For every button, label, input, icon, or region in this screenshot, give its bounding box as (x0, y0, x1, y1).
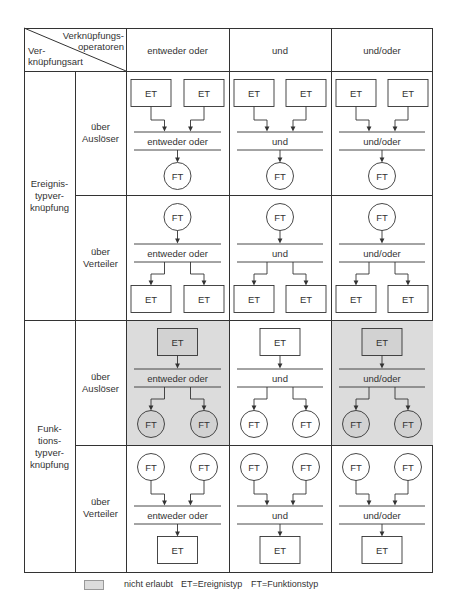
svg-text:FT: FT (402, 462, 414, 473)
group-label-event-type-connection: Ereignis- typver- knüpfung (24, 178, 75, 214)
svg-text:FT: FT (172, 212, 184, 223)
svg-text:FT: FT (145, 462, 157, 473)
operator-label: und/oder (363, 136, 401, 147)
diagram-cell: FTund/oderETET (331, 195, 433, 320)
arrowhead-icon (304, 281, 309, 286)
arrowhead-icon (354, 281, 359, 286)
operator-label: entweder oder (147, 373, 208, 384)
arrowhead-icon (162, 501, 167, 506)
svg-text:FT: FT (300, 419, 312, 430)
diagram-cell: FTentweder oderETET (126, 195, 229, 320)
svg-text:ET: ET (300, 88, 312, 99)
function-type-node: FT (164, 163, 191, 190)
svg-text:ET: ET (171, 545, 183, 556)
svg-text:FT: FT (376, 212, 388, 223)
grid-line (126, 28, 127, 573)
event-type-node: ET (336, 80, 376, 107)
grid-line (75, 195, 433, 196)
subrow-label-via-trigger: über Auslöser (75, 371, 126, 395)
arrowhead-icon (278, 364, 283, 369)
svg-text:ET: ET (376, 545, 388, 556)
function-type-node: FT (241, 411, 268, 438)
svg-text:FT: FT (402, 419, 414, 430)
arrowhead-icon (175, 532, 180, 537)
function-type-node: FT (267, 163, 294, 190)
function-type-node: FT (395, 454, 422, 481)
svg-text:ET: ET (402, 294, 414, 305)
arrowhead-icon (291, 501, 296, 506)
diagram-cell: FTFTentweder oderET (126, 445, 229, 570)
grid-line (229, 28, 230, 573)
arrowhead-icon (380, 532, 385, 537)
arrowhead-icon (393, 501, 398, 506)
event-type-node: ET (131, 286, 171, 313)
header-connection-type-label: Ver- knüpfungsart (28, 45, 83, 67)
event-type-node: ET (158, 329, 198, 356)
arrowhead-icon (304, 406, 309, 411)
subrow-label-via-distributor: über Verteiler (75, 496, 126, 520)
diagram-cell: FTundETET (229, 195, 331, 320)
svg-text:ET: ET (300, 294, 312, 305)
svg-text:ET: ET (376, 337, 388, 348)
arrowhead-icon (380, 239, 385, 244)
svg-text:FT: FT (248, 419, 260, 430)
svg-text:FT: FT (300, 462, 312, 473)
arrowhead-icon (354, 406, 359, 411)
svg-text:ET: ET (171, 337, 183, 348)
arrowhead-icon (278, 532, 283, 537)
event-type-node: ET (388, 286, 428, 313)
group-label-function-type-connection: Funk- tions- typver- knüpfung (24, 423, 75, 471)
event-type-node: ET (131, 80, 171, 107)
operator-label: entweder oder (147, 248, 208, 259)
arrowhead-icon (278, 239, 283, 244)
diagram-cell-not-allowed: ETentweder oderFTFT (126, 320, 229, 445)
diagram-cell: ETETundFT (229, 71, 331, 196)
svg-text:FT: FT (198, 419, 210, 430)
grid-line (24, 320, 433, 321)
arrowhead-icon (406, 406, 411, 411)
arrowhead-icon (265, 127, 270, 132)
function-type-node: FT (191, 411, 218, 438)
not-allowed-swatch (84, 580, 104, 590)
event-type-node: ET (336, 286, 376, 313)
diagram-cell-not-allowed: ETund/oderFTFT (331, 320, 433, 445)
arrowhead-icon (291, 127, 296, 132)
event-type-node: ET (260, 329, 300, 356)
arrowhead-icon (175, 364, 180, 369)
operator-label: und/oder (363, 373, 401, 384)
operator-label: und (272, 136, 288, 147)
column-header-and-or: und/oder (331, 45, 433, 57)
event-type-node: ET (260, 537, 300, 564)
operator-label: und/oder (363, 510, 401, 521)
operator-label: und (272, 248, 288, 259)
svg-text:ET: ET (198, 294, 210, 305)
svg-text:FT: FT (350, 462, 362, 473)
svg-text:ET: ET (402, 88, 414, 99)
function-type-node: FT (164, 204, 191, 231)
svg-text:FT: FT (350, 419, 362, 430)
grid-line (75, 445, 433, 446)
event-type-node: ET (158, 537, 198, 564)
svg-text:FT: FT (274, 212, 286, 223)
svg-text:FT: FT (376, 171, 388, 182)
grid-line (331, 28, 332, 573)
svg-text:FT: FT (248, 462, 260, 473)
legend-ft: FT=Funktionstyp (251, 579, 318, 589)
svg-text:FT: FT (145, 419, 157, 430)
subrow-label-via-trigger: über Auslöser (75, 121, 126, 145)
diagram-cell: ETundFTFT (229, 320, 331, 445)
svg-text:ET: ET (145, 294, 157, 305)
arrowhead-icon (252, 281, 257, 286)
arrowhead-icon (162, 127, 167, 132)
arrowhead-icon (367, 501, 372, 506)
svg-text:ET: ET (274, 545, 286, 556)
arrowhead-icon (380, 158, 385, 163)
svg-text:FT: FT (172, 171, 184, 182)
function-type-node: FT (293, 454, 320, 481)
function-type-node: FT (241, 454, 268, 481)
function-type-node: FT (293, 411, 320, 438)
diagram-cell: FTFTund/oderET (331, 445, 433, 570)
event-type-node: ET (388, 80, 428, 107)
svg-text:ET: ET (248, 294, 260, 305)
operator-label: entweder oder (147, 510, 208, 521)
